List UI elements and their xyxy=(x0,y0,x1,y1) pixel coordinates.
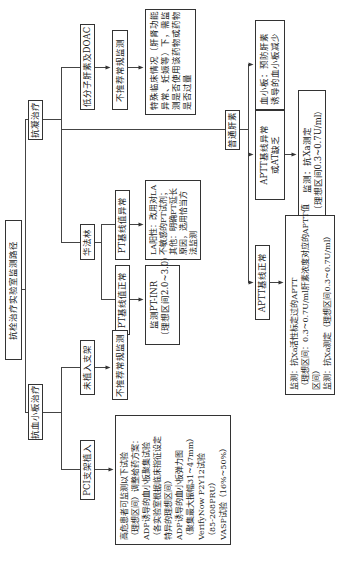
connector xyxy=(61,367,80,368)
node-pt-abnormal: PT基线值异常 xyxy=(115,190,130,260)
arrow-icon xyxy=(249,63,254,67)
arrow-icon xyxy=(139,223,144,227)
node-heparin: 普通肝素 xyxy=(225,110,240,150)
node-pt-normal: PT基线值正常 xyxy=(115,265,130,335)
text-line: （理想区间：0.3~0.7U/ml肝素浓度对应的APTT值 xyxy=(300,220,311,390)
text-line: 监测：抗Xa测定（理想区间0.3~0.7U/ml） xyxy=(322,220,333,390)
text-line: 诱导的血小板减少 xyxy=(270,25,281,105)
node-anticoagulant: 抗凝治疗 xyxy=(28,100,43,140)
text-line: 其他：明确PT延长 xyxy=(169,185,179,255)
text-line: 区间） xyxy=(311,220,322,390)
node-aptt-normal: APTT基线正常 xyxy=(255,245,270,320)
connector xyxy=(61,68,62,243)
connector xyxy=(61,469,80,470)
node-pt-abnormal-detail: LA阳性：改用对LA 不敏感的PT试剂； 其他：明确PT延长 原因，选用恰当方 … xyxy=(145,180,201,260)
node-heparin-platelet: 血小板：预防肝素 诱导的血小板减少 xyxy=(255,20,285,110)
root-node: 抗栓治疗实验室监测路径 xyxy=(5,220,22,360)
text-line: （聚集最大振幅31~47mm） xyxy=(185,420,196,540)
arrow-icon xyxy=(249,281,254,285)
node-antiplatelet: 抗血小板治疗 xyxy=(28,384,43,440)
text-line: （理想区间2.0~3.0） xyxy=(160,270,171,340)
node-aptt-abnormal: APTT基线异常 或AT缺乏 xyxy=(255,110,285,200)
arrow-icon xyxy=(139,66,144,70)
text-line: 血小板：预防肝素 xyxy=(259,25,270,105)
connector xyxy=(240,129,248,130)
diagram-canvas: 抗栓治疗实验室监测路径 抗凝治疗 抗血小板治疗 低分子肝素及DOAC 不推荐常规… xyxy=(0,0,340,571)
arrow-icon xyxy=(106,366,111,370)
node-warfarin: 华法林 xyxy=(80,224,95,260)
node-pci-stent: PCI支架植入 xyxy=(80,440,95,500)
text-line: APTT基线异常 xyxy=(259,115,270,195)
connector xyxy=(61,129,225,130)
arrow-icon xyxy=(292,153,297,157)
arrow-icon xyxy=(249,153,254,157)
connector xyxy=(43,412,61,413)
text-line: 特异的理想区间） xyxy=(163,420,174,540)
text-line: 是否过量 xyxy=(182,14,193,110)
node-aptt-normal-monitor: 监测：抗Xa活性标定过的APTT （理想区间：0.3~0.7U/ml肝素浓度对应… xyxy=(285,215,335,395)
text-line: 监测：抗Xa活性标定过的APTT xyxy=(289,220,300,390)
node-lmwh-doac: 低分子肝素及DOAC xyxy=(80,24,95,110)
node-no-stent-no-routine: 不推荐常规监测 xyxy=(112,330,128,400)
text-line: ADP诱导的血小板聚集试验 xyxy=(141,420,152,540)
text-line: 异常、妊娠等）下，需监 xyxy=(160,14,171,110)
connector xyxy=(61,242,80,243)
text-line: （理想区间0.3~0.7U/ml） xyxy=(313,95,324,225)
arrow-icon xyxy=(106,66,111,70)
text-line: 高危患者可监测以下试验 xyxy=(119,420,130,540)
node-pt-inr: 监测PT-INR （理想区间2.0~3.0） xyxy=(145,265,180,345)
node-pci-monitor: 高危患者可监测以下试验 （理想区间）调整给药方案： ADP诱导的血小板聚集试验 … xyxy=(115,415,231,545)
text-line: 特殊临床情况（肝肾功能 xyxy=(149,14,160,110)
connector xyxy=(43,119,61,120)
node-lmwh-special: 特殊临床情况（肝肾功能 异常、妊娠等）下，需监 测是否使用该药物或药物 是否过量 xyxy=(145,9,196,115)
arrow-icon xyxy=(279,281,284,285)
text-line: 测是否使用该药物或药物 xyxy=(171,14,182,110)
text-line: LA阳性：改用对LA xyxy=(149,185,159,255)
node-lmwh-no-routine: 不推荐常规监测 xyxy=(112,30,128,110)
text-line: 或AT缺乏 xyxy=(270,115,281,195)
text-line: 不敏感的PT试剂； xyxy=(159,185,169,255)
text-line: 监测PT-INR xyxy=(149,270,160,340)
connector xyxy=(101,299,115,300)
connector xyxy=(101,224,115,225)
text-line: ADP诱导的血小板弹力图 xyxy=(174,420,185,540)
text-line: 法监测 xyxy=(189,185,199,255)
connector xyxy=(61,67,80,68)
connector xyxy=(61,368,62,470)
text-line: （理想区间）调整给药方案： xyxy=(130,420,141,540)
connector xyxy=(101,225,102,300)
text-line: （85-208PRU） xyxy=(207,420,218,540)
text-line: （各实验室根据临床指征设定 xyxy=(152,420,163,540)
text-line: VASP试验（16%~50%） xyxy=(218,420,229,540)
connector xyxy=(248,65,249,283)
text-line: VerifyNow P2Y12试验 xyxy=(196,420,207,540)
connector xyxy=(25,119,26,413)
node-no-stent: 未植入支架 xyxy=(80,340,95,395)
arrow-icon xyxy=(109,468,114,472)
text-line: 原因，选用恰当方 xyxy=(179,185,189,255)
arrow-icon xyxy=(139,298,144,302)
